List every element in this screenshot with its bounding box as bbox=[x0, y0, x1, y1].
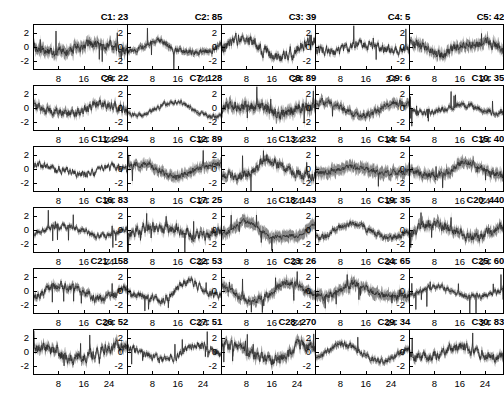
y-tick-label: 2 bbox=[97, 150, 123, 159]
y-tick-label: 0 bbox=[379, 286, 405, 295]
y-tick-mark bbox=[316, 216, 319, 217]
x-tick-mark bbox=[366, 371, 367, 374]
y-tick-mark bbox=[128, 277, 131, 278]
x-tick-mark bbox=[485, 371, 486, 374]
y-tick-label: 0 bbox=[191, 42, 217, 51]
y-tick-label: -2 bbox=[285, 56, 311, 65]
y-tick-mark bbox=[316, 352, 319, 353]
y-tick-mark bbox=[128, 291, 131, 292]
y-tick-label: 0 bbox=[97, 225, 123, 234]
x-tick-mark bbox=[485, 249, 486, 252]
x-tick-label-row: 81624 bbox=[221, 379, 316, 389]
y-tick-mark bbox=[316, 244, 319, 245]
x-tick-mark bbox=[246, 310, 247, 313]
x-tick-mark bbox=[178, 188, 179, 191]
y-tick-label: -2 bbox=[191, 56, 217, 65]
x-tick-mark bbox=[203, 127, 204, 130]
y-tick-label: 0 bbox=[191, 286, 217, 295]
x-tick-label: 8 bbox=[244, 379, 249, 388]
x-tick-mark bbox=[58, 310, 59, 313]
x-tick-label: 16 bbox=[78, 379, 89, 388]
y-tick-mark bbox=[316, 366, 319, 367]
panel-title-c20: C20: 440 bbox=[434, 195, 504, 205]
y-tick-label: -2 bbox=[285, 117, 311, 126]
y-tick-label: -2 bbox=[191, 361, 217, 370]
y-tick-mark bbox=[34, 108, 37, 109]
y-tick-label: -2 bbox=[97, 361, 123, 370]
y-tick-label: 2 bbox=[3, 333, 29, 342]
y-tick-mark bbox=[316, 183, 319, 184]
y-tick-mark bbox=[222, 61, 225, 62]
panel-title-c11: C11: 294 bbox=[58, 134, 128, 144]
y-tick-mark bbox=[34, 338, 37, 339]
x-tick-mark bbox=[297, 66, 298, 69]
y-tick-label: 0 bbox=[3, 347, 29, 356]
y-tick-mark bbox=[410, 277, 413, 278]
x-tick-mark bbox=[84, 310, 85, 313]
y-tick-mark bbox=[128, 230, 131, 231]
x-tick-mark bbox=[109, 66, 110, 69]
panel-title-c13: C13: 232 bbox=[246, 134, 316, 144]
y-tick-label: 0 bbox=[97, 286, 123, 295]
y-tick-mark bbox=[34, 155, 37, 156]
y-tick-mark bbox=[128, 338, 131, 339]
y-tick-mark bbox=[128, 216, 131, 217]
x-tick-label-row: 81624 bbox=[33, 379, 128, 389]
x-tick-mark bbox=[203, 188, 204, 191]
x-tick-mark bbox=[340, 188, 341, 191]
x-tick-mark bbox=[203, 310, 204, 313]
y-tick-mark bbox=[222, 108, 225, 109]
y-tick-mark bbox=[128, 183, 131, 184]
y-tick-mark bbox=[410, 352, 413, 353]
panel-title-c27: C27: 51 bbox=[152, 317, 222, 327]
y-tick-mark bbox=[128, 155, 131, 156]
y-tick-mark bbox=[410, 47, 413, 48]
y-tick-mark bbox=[222, 94, 225, 95]
y-tick-mark bbox=[34, 122, 37, 123]
x-tick-mark bbox=[58, 371, 59, 374]
y-tick-mark bbox=[410, 338, 413, 339]
x-tick-mark bbox=[272, 310, 273, 313]
x-tick-label: 24 bbox=[104, 379, 115, 388]
x-tick-mark bbox=[391, 310, 392, 313]
panel-title-c24: C24: 65 bbox=[340, 256, 410, 266]
x-tick-mark bbox=[178, 371, 179, 374]
x-tick-mark bbox=[203, 371, 204, 374]
panel-title-c19: C19: 35 bbox=[340, 195, 410, 205]
y-tick-label: 0 bbox=[191, 164, 217, 173]
x-tick-mark bbox=[297, 249, 298, 252]
y-tick-mark bbox=[128, 33, 131, 34]
x-tick-mark bbox=[340, 66, 341, 69]
y-tick-mark bbox=[34, 94, 37, 95]
panel-title-c9: C9: 6 bbox=[340, 73, 410, 83]
x-tick-label-row: 81624 bbox=[315, 379, 410, 389]
panel-title-c18: C18: 143 bbox=[246, 195, 316, 205]
y-tick-mark bbox=[316, 47, 319, 48]
y-tick-label: 2 bbox=[3, 211, 29, 220]
x-tick-mark bbox=[272, 127, 273, 130]
panel-title-c7: C7: 128 bbox=[152, 73, 222, 83]
x-tick-mark bbox=[178, 66, 179, 69]
y-tick-label: -2 bbox=[191, 117, 217, 126]
panel-title-c14: C14: 54 bbox=[340, 134, 410, 144]
y-tick-mark bbox=[34, 366, 37, 367]
x-tick-mark bbox=[152, 127, 153, 130]
y-tick-mark bbox=[222, 352, 225, 353]
panel-title-c17: C17: 25 bbox=[152, 195, 222, 205]
panel-title-c22: C22: 53 bbox=[152, 256, 222, 266]
x-tick-mark bbox=[434, 188, 435, 191]
y-tick-label: 0 bbox=[3, 225, 29, 234]
panel-title-c23: C23: 26 bbox=[246, 256, 316, 266]
panel-title-c5: C5: 42 bbox=[434, 12, 504, 22]
panel-axes-c20 bbox=[409, 207, 504, 253]
y-tick-mark bbox=[34, 61, 37, 62]
panel-title-c4: C4: 5 bbox=[340, 12, 410, 22]
y-tick-mark bbox=[316, 155, 319, 156]
y-tick-mark bbox=[34, 352, 37, 353]
x-tick-mark bbox=[460, 127, 461, 130]
panel-title-c30: C30: 83 bbox=[434, 317, 504, 327]
x-tick-mark bbox=[434, 310, 435, 313]
x-tick-mark bbox=[152, 188, 153, 191]
x-tick-mark bbox=[109, 188, 110, 191]
y-tick-mark bbox=[128, 47, 131, 48]
